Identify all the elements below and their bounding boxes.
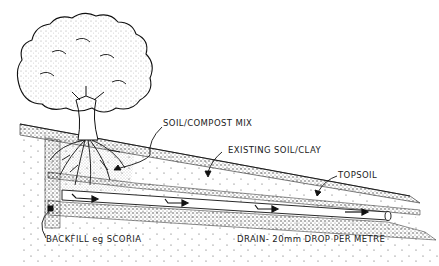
label-soil-compost: SOIL/COMPOST MIX	[163, 118, 252, 128]
label-existing-soil: EXISTING SOIL/CLAY	[228, 145, 321, 155]
label-backfill: BACKFILL eg SCORIA	[46, 234, 141, 244]
label-drain: DRAIN- 20mm DROP PER METRE	[237, 234, 385, 244]
tree-canopy	[17, 13, 152, 112]
label-topsoil: TOPSOIL	[338, 170, 377, 180]
drain-diagram	[0, 0, 439, 266]
